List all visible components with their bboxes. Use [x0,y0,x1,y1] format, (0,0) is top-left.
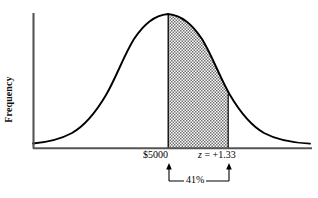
normal-distribution-figure: Frequency $5000 z = +1.33 41% [0,0,318,198]
distribution-chart-canvas [0,0,318,198]
z-score-label: z = +1.33 [198,149,236,160]
mean-value-label: $5000 [143,149,168,160]
shaded-area-region [168,10,228,148]
z-value: = +1.33 [202,149,236,160]
area-percent-label: 41% [184,174,206,185]
